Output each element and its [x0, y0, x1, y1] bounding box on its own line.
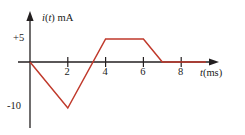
- y-axis: [26, 11, 33, 128]
- x-tick-label-4: 4: [102, 67, 107, 78]
- x-axis-arrowhead: [209, 58, 219, 65]
- y-axis-label-unit: mA: [55, 12, 73, 23]
- y-tick-label-minus10: -10: [7, 101, 21, 112]
- y-tick-label-plus5: +5: [13, 33, 24, 44]
- x-tick-label-6: 6: [140, 67, 145, 78]
- x-axis-label: t(ms): [200, 68, 222, 79]
- current-waveform-figure: i(t) mA t(ms) 2 4 6 8 +5 -10: [0, 0, 245, 135]
- x-tick-label-2: 2: [65, 67, 70, 78]
- x-tick-label-8: 8: [178, 67, 183, 78]
- y-axis-label: i(t) mA: [42, 13, 73, 24]
- x-axis-label-unit: (ms): [203, 67, 222, 78]
- y-axis-arrowhead: [26, 11, 33, 21]
